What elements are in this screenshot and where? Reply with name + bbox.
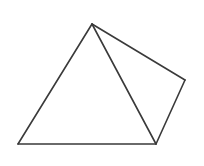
pyramid-wireframe-svg: Line drawing of a pyramid seen in three-…: [0, 0, 204, 166]
figure-canvas: Line drawing of a pyramid seen in three-…: [0, 0, 204, 166]
